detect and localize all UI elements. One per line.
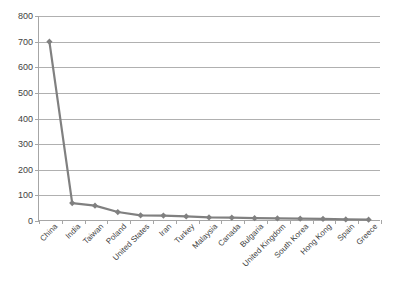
y-axis-tick-label: 600 <box>18 63 33 72</box>
chart-container: 8007006005004003002001000 ChinaIndiaTaiw… <box>0 0 403 291</box>
line-series-layer <box>38 16 380 221</box>
data-point-marker <box>138 212 144 218</box>
y-axis-tick-label: 0 <box>28 217 33 226</box>
data-point-marker <box>206 214 212 220</box>
x-axis-category-label: Greece <box>354 222 379 247</box>
y-axis-tick-label: 400 <box>18 114 33 123</box>
x-axis-category-label: Canada <box>216 222 242 248</box>
data-point-marker <box>252 215 258 221</box>
data-point-marker <box>183 213 189 219</box>
data-point-marker <box>92 203 98 209</box>
series-line <box>49 42 368 220</box>
x-axis-category-label: India <box>64 222 83 241</box>
x-axis-tick <box>381 220 382 224</box>
y-axis-tick-label: 700 <box>18 37 33 46</box>
x-axis-category-label: China <box>39 222 60 243</box>
x-axis-category-label: Taiwan <box>81 222 105 246</box>
y-axis-tick-label: 100 <box>18 191 33 200</box>
x-axis-category-label: Spain <box>335 222 356 243</box>
x-axis-labels: ChinaIndiaTaiwanPolandUnited StatesIranT… <box>38 222 380 291</box>
y-axis-tick-label: 200 <box>18 165 33 174</box>
y-axis-tick-label: 300 <box>18 140 33 149</box>
data-point-marker <box>115 209 121 215</box>
data-point-marker <box>229 215 235 221</box>
data-point-marker <box>46 39 52 45</box>
data-point-marker <box>274 215 280 221</box>
x-axis-category-label: Iran <box>158 222 174 238</box>
data-point-marker <box>160 213 166 219</box>
data-point-marker <box>69 200 75 206</box>
y-axis-tick-label: 800 <box>18 12 33 21</box>
y-axis-tick-label: 500 <box>18 88 33 97</box>
data-point-marker <box>297 216 303 222</box>
